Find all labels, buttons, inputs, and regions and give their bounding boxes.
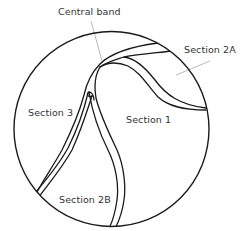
band-split-right bbox=[89, 92, 118, 231]
central-band-leader bbox=[91, 21, 102, 61]
label-central-band: Central band bbox=[58, 6, 121, 17]
label-section-2b: Section 2B bbox=[59, 194, 111, 205]
label-section-1: Section 1 bbox=[126, 114, 171, 125]
section-2a-leader bbox=[176, 61, 210, 75]
label-section-2a: Section 2A bbox=[184, 44, 236, 55]
label-section-3: Section 3 bbox=[28, 107, 73, 118]
band-1-left-edge bbox=[95, 67, 125, 231]
band-2a-upper bbox=[124, 51, 206, 108]
